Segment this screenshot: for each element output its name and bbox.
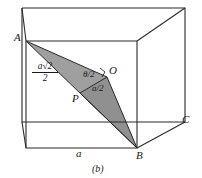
cube-edge-top-right (137, 8, 185, 41)
vertex-label-p: P (72, 93, 79, 104)
vertex-label-b: B (136, 150, 143, 161)
cube-edge-top-left (22, 8, 26, 41)
half-side-label: a/2 (92, 84, 104, 93)
bottom-edge-label: a (76, 148, 82, 159)
cube-edge-bottom-right (137, 122, 185, 148)
cube-geometry-figure: A B C O P a√2 2 θ/2 a/2 a (b) (0, 0, 202, 178)
fraction-numerator: a√2 (32, 62, 58, 72)
cube-edge-bottom-left (22, 122, 26, 148)
half-face-diagonal-label: a√2 2 (32, 62, 58, 84)
figure-caption: (b) (92, 164, 104, 174)
vertex-label-o: O (109, 65, 117, 76)
vertex-label-c: C (182, 114, 189, 125)
vertex-label-a: A (14, 32, 21, 43)
half-angle-label: θ/2 (83, 70, 94, 79)
fraction-denominator: 2 (32, 74, 58, 84)
